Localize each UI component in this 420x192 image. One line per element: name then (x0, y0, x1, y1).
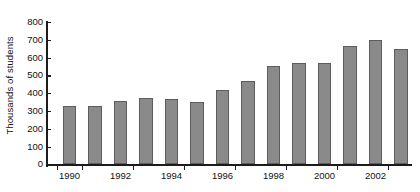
x-axis-tick-label: 1990 (59, 171, 80, 181)
x-axis-tick-mark (388, 166, 389, 170)
bar (190, 102, 203, 164)
x-axis-tick-label: 1998 (263, 171, 284, 181)
bar (241, 81, 254, 165)
bar-chart: Thousands of students 010020030040050060… (0, 0, 420, 192)
y-axis-tick-label: 700 (17, 35, 43, 45)
x-axis-tick-mark (57, 166, 58, 170)
bars-layer (46, 22, 412, 166)
x-axis-tick-label: 2002 (365, 171, 386, 181)
bar (139, 98, 152, 165)
x-axis-tick-label: 2000 (314, 171, 335, 181)
x-axis-tick-mark (337, 166, 338, 170)
y-axis-tick-label: 800 (17, 17, 43, 27)
x-axis-tick-label: 1994 (161, 171, 182, 181)
bar (216, 90, 229, 165)
bar (267, 66, 280, 165)
x-axis-tick-mark (286, 166, 287, 170)
y-axis-tick-label: 300 (17, 106, 43, 116)
x-axis-tick-labels: 1990199219941996199820002002 (46, 171, 412, 187)
y-axis-title-text: Thousands of students (4, 36, 15, 134)
plot-area (46, 22, 412, 166)
bar (394, 49, 407, 165)
bar (369, 40, 382, 165)
x-axis-tick-mark (133, 166, 134, 170)
x-axis-tick-mark (82, 166, 83, 170)
x-axis-tick-label: 1996 (212, 171, 233, 181)
bar (318, 63, 331, 164)
y-axis-tick-label: 100 (17, 142, 43, 152)
bar (343, 46, 356, 164)
bar (165, 99, 178, 164)
y-axis-tick-label: 400 (17, 88, 43, 98)
y-axis-tick-label: 500 (17, 71, 43, 81)
bar (88, 106, 101, 165)
bar (114, 101, 127, 164)
y-axis-tick-label: 0 (17, 160, 43, 170)
y-axis-tick-labels: 0100200300400500600700800 (17, 0, 43, 192)
bar (63, 106, 76, 165)
x-axis-tick-mark (184, 166, 185, 170)
x-axis-tick-label: 1992 (110, 171, 131, 181)
y-axis-tick-label: 200 (17, 124, 43, 134)
y-axis-tick-label: 600 (17, 53, 43, 63)
y-axis-title: Thousands of students (0, 0, 18, 170)
x-axis-tick-mark (235, 166, 236, 170)
bar (292, 63, 305, 164)
